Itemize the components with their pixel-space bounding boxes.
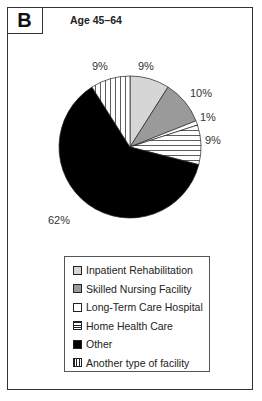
legend-item-other: Other <box>73 335 209 354</box>
slice-label-home-health: 9% <box>205 134 221 146</box>
legend-item-skilled: Skilled Nursing Facility <box>73 280 209 299</box>
swatch-black-icon <box>73 340 82 349</box>
slice-label-skilled: 10% <box>190 87 212 99</box>
swatch-hstripe-icon <box>73 321 82 330</box>
swatch-gray-icon <box>73 284 82 293</box>
swatch-white-icon <box>73 303 82 312</box>
slice-label-ltch: 1% <box>200 111 216 123</box>
swatch-light-gray-icon <box>73 266 82 275</box>
swatch-vstripe-icon <box>73 358 82 367</box>
slice-label-inpatient: 9% <box>138 60 154 72</box>
legend-item-ltch: Long-Term Care Hospital <box>73 298 209 317</box>
legend: Inpatient Rehabilitation Skilled Nursing… <box>64 256 210 372</box>
legend-item-inpatient: Inpatient Rehabilitation <box>73 261 209 280</box>
slice-label-other: 62% <box>48 214 70 226</box>
slice-label-another: 9% <box>92 60 108 72</box>
legend-item-another: Another type of facility <box>73 354 209 373</box>
legend-item-home-health: Home Health Care <box>73 317 209 336</box>
